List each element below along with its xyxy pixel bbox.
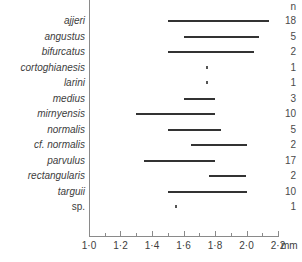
taxon-label: angustus (0, 29, 85, 45)
range-bar (191, 144, 246, 146)
sample-count-value: 2 (274, 44, 296, 60)
table-row: ajjeri18 (0, 13, 302, 29)
sample-count-value: 5 (274, 29, 296, 45)
x-axis-minor-tick (168, 233, 169, 236)
x-axis-tick-label: 2·0 (232, 240, 262, 251)
taxon-label: rectangularis (0, 168, 85, 184)
x-axis-tick-label: 1·8 (200, 240, 230, 251)
x-axis-minor-tick (136, 233, 137, 236)
x-axis-major-tick (278, 231, 279, 236)
x-axis-major-tick (247, 231, 248, 236)
taxon-label: sp. (0, 199, 85, 215)
taxon-label: normalis (0, 122, 85, 138)
table-row: larini1 (0, 75, 302, 91)
x-axis-major-tick (184, 231, 185, 236)
x-axis-minor-tick (231, 233, 232, 236)
range-bar (168, 51, 255, 53)
x-axis-tick-label: 1·6 (169, 240, 199, 251)
range-bar (144, 160, 215, 162)
x-axis-major-tick (89, 231, 90, 236)
taxon-label: ajjeri (0, 13, 85, 29)
sample-count-value: 10 (274, 106, 296, 122)
x-axis-major-tick (215, 231, 216, 236)
x-axis-major-tick (120, 231, 121, 236)
range-bar (168, 20, 269, 22)
table-row: sp.1 (0, 199, 302, 215)
x-axis-tick-label: 1·4 (137, 240, 167, 251)
species-size-range-chart: n ajjeri18angustus5bifurcatus2cortoghian… (0, 0, 302, 262)
x-axis-line (89, 236, 279, 237)
taxon-label: parvulus (0, 153, 85, 169)
column-header-n: n (274, 1, 296, 12)
range-bar (184, 36, 260, 38)
x-axis-tick-label: 1·0 (74, 240, 104, 251)
taxon-label: cortoghianesis (0, 60, 85, 76)
taxon-label: larini (0, 75, 85, 91)
sample-count-value: 1 (274, 199, 296, 215)
sample-count-value: 2 (274, 168, 296, 184)
x-axis-minor-tick (262, 233, 263, 236)
table-row: medius3 (0, 91, 302, 107)
range-bar (168, 191, 247, 193)
table-row: normalis5 (0, 122, 302, 138)
sample-count-value: 1 (274, 75, 296, 91)
x-axis-major-tick (152, 231, 153, 236)
range-point-marker (206, 66, 208, 69)
sample-count-value: 1 (274, 60, 296, 76)
sample-count-value: 5 (274, 122, 296, 138)
sample-count-value: 2 (274, 137, 296, 153)
table-row: angustus5 (0, 29, 302, 45)
taxon-label: targuii (0, 184, 85, 200)
range-bar (136, 113, 215, 115)
table-row: rectangularis2 (0, 168, 302, 184)
table-row: parvulus17 (0, 153, 302, 169)
x-axis-tick-label: 1·2 (106, 240, 136, 251)
sample-count-value: 3 (274, 91, 296, 107)
table-row: targuii10 (0, 184, 302, 200)
taxon-label: bifurcatus (0, 44, 85, 60)
range-point-marker (206, 81, 208, 84)
x-axis-unit-label: mm (281, 240, 298, 251)
table-row: cf. normalis2 (0, 137, 302, 153)
sample-count-value: 18 (274, 13, 296, 29)
range-point-marker (175, 205, 177, 208)
table-row: bifurcatus2 (0, 44, 302, 60)
sample-count-value: 10 (274, 184, 296, 200)
range-bar (209, 175, 247, 177)
range-bar (168, 129, 222, 131)
taxon-label: medius (0, 91, 85, 107)
table-row: cortoghianesis1 (0, 60, 302, 76)
taxon-label: mirnyensis (0, 106, 85, 122)
range-bar (184, 98, 216, 100)
x-axis-minor-tick (199, 233, 200, 236)
x-axis-minor-tick (105, 233, 106, 236)
sample-count-value: 17 (274, 153, 296, 169)
table-row: mirnyensis10 (0, 106, 302, 122)
taxon-label: cf. normalis (0, 137, 85, 153)
